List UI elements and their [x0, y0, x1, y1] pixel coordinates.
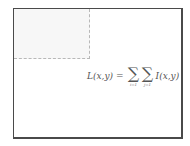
- formula-lhs: L(x,y): [87, 66, 113, 83]
- sum-index-i: i=1: [130, 82, 137, 87]
- summation-j: ∑ j=1: [141, 66, 155, 87]
- image-frame: L(x,y) = ∑ i=1 ∑ j=1 I(x,y): [13, 8, 183, 139]
- summation-i: ∑ i=1: [127, 66, 141, 87]
- sum-index-j: j=1: [144, 82, 151, 87]
- sigma-icon: ∑: [142, 66, 153, 82]
- dashed-region: [14, 9, 90, 59]
- formula-rhs: I(x,y): [156, 66, 180, 83]
- integral-image-formula: L(x,y) = ∑ i=1 ∑ j=1 I(x,y): [87, 66, 179, 87]
- equals-sign: =: [116, 66, 124, 83]
- sigma-icon: ∑: [128, 66, 139, 82]
